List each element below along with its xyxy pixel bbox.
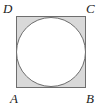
vertex-label-b: B [86,92,94,105]
vertex-label-a: A [10,92,18,105]
inscribed-circle [17,18,86,87]
vertex-label-c: C [86,2,95,15]
geometry-figure: D C A B [0,0,103,109]
vertex-label-d: D [3,2,12,15]
